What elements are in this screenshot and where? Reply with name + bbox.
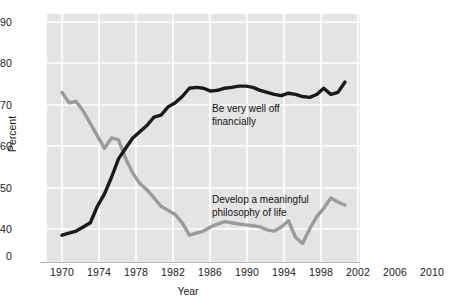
annotation-be-very-well-off: Be very well off financially: [212, 103, 280, 128]
y-tick-label-90: 90: [0, 17, 12, 28]
y-axis-title: Percent: [6, 99, 18, 169]
y-tick-label-0: 0: [0, 251, 12, 262]
x-axis-title: Year: [0, 285, 376, 297]
y-tick-label-50: 50: [0, 183, 12, 194]
x-axis-rule: [40, 262, 360, 263]
x-tick-label-2010: 2010: [410, 266, 449, 278]
plot-area: [47, 14, 360, 263]
grid-horizontal: [47, 22, 360, 229]
annotation-philosophy-of-life: Develop a meaningful philosophy of life: [212, 194, 309, 219]
series-line-philosophy: [62, 92, 345, 243]
y-tick-label-80: 80: [0, 58, 12, 69]
plot-canvas: [47, 14, 360, 263]
y-tick-label-40: 40: [0, 224, 12, 235]
